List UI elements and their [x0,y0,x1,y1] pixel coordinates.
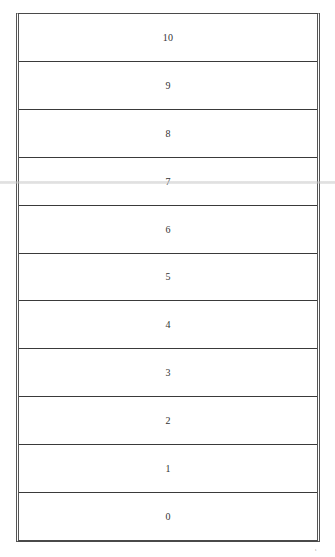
stack-row-3: 3 [19,348,317,396]
row-label: 5 [165,271,170,282]
stack-row-5: 5 [19,253,317,301]
stack-row-4: 4 [19,300,317,348]
row-label: 9 [165,80,170,91]
row-label: 0 [165,511,170,522]
corner-mark: ι [315,547,316,552]
stack-row-6: 6 [19,205,317,253]
row-label: 2 [165,415,170,426]
row-label: 4 [165,319,170,330]
stack-row-7: 7 [19,157,317,205]
stack-row-9: 9 [19,61,317,109]
row-label: 6 [165,224,170,235]
row-label: 8 [165,128,170,139]
row-label: 3 [165,367,170,378]
stack-row-2: 2 [19,396,317,444]
row-label: 1 [165,463,170,474]
level-stack: 10 9 8 7 6 5 4 3 2 1 0 [16,13,320,542]
row-label: 10 [163,32,173,43]
stack-row-0: 0 [19,492,317,540]
stack-row-8: 8 [19,109,317,157]
stack-row-1: 1 [19,444,317,492]
row-label: 7 [165,176,170,187]
stack-row-10: 10 [19,14,317,61]
